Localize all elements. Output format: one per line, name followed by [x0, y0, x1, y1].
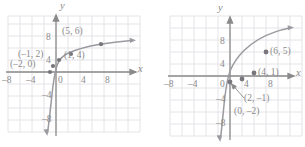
- left-curve: [44, 38, 136, 136]
- right-axes: [168, 17, 294, 140]
- left-xtick-0: 0: [58, 76, 63, 86]
- right-xtick-0: 0: [220, 80, 225, 90]
- graph-panel-right: y x –8 –4 0 4 8 8 4 –4 –8 (6, 5) (4, 1) …: [152, 0, 304, 147]
- left-xtick--8: –8: [2, 76, 12, 86]
- left-ytick-4: 4: [46, 56, 51, 66]
- right-xtick-4: 4: [244, 80, 249, 90]
- right-ytick--8: –8: [216, 119, 226, 129]
- left-point-label-5-6: (5, 6): [62, 27, 83, 37]
- right-xtick--8: –8: [164, 80, 174, 90]
- left-ytick-8: 8: [46, 33, 51, 43]
- left-xtick-8: 8: [105, 76, 110, 86]
- left-point-label-1-4: (1, 4): [64, 51, 85, 61]
- left-xtick-4: 4: [81, 76, 86, 86]
- right-grid-and-curve: [152, 0, 304, 147]
- left-y-axis-label: y: [60, 1, 65, 12]
- figure-two-graphs: y x –8 –4 0 4 8 8 4 –4 –8 (5, 6) (–1, 2)…: [0, 0, 305, 147]
- right-point-label-0--2: (0, –2): [234, 107, 259, 117]
- right-ytick-4: 4: [220, 60, 225, 70]
- left-point-label--2-0: (–2, 0): [10, 60, 35, 70]
- right-xtick--4: –4: [188, 80, 198, 90]
- right-point-label-4-1: (4, 1): [258, 68, 279, 78]
- right-point-label-2--1: (2, –1): [244, 94, 269, 104]
- right-xtick-8: 8: [268, 80, 273, 90]
- right-x-axis-label: x: [296, 68, 301, 79]
- right-y-axis-label: y: [218, 3, 223, 14]
- left-ytick--8: –8: [42, 115, 52, 125]
- right-point-label-6-5: (6, 5): [270, 47, 291, 57]
- left-xtick--4: –4: [26, 76, 36, 86]
- left-x-axis-label: x: [138, 64, 143, 75]
- left-grid-and-curve: [0, 0, 152, 147]
- right-ytick-8: 8: [220, 37, 225, 47]
- right-ytick--4: –4: [216, 95, 226, 105]
- graph-panel-left: y x –8 –4 0 4 8 8 4 –4 –8 (5, 6) (–1, 2)…: [0, 0, 152, 147]
- left-ytick--4: –4: [42, 91, 52, 101]
